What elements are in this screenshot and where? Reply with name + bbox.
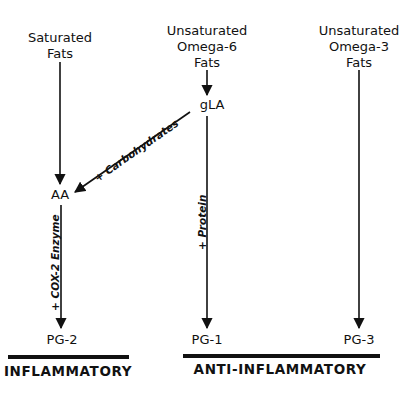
source-omega6-line2: Omega-6 [167,39,248,55]
source-saturated-fats: Saturated Fats [28,30,92,62]
source-omega6-fats: Unsaturated Omega-6 Fats [167,23,248,71]
edge-label-protein: + Protein [196,195,208,250]
node-pg1: PG-1 [192,332,223,348]
anti-inflammatory-divider [183,354,380,358]
category-inflammatory: INFLAMMATORY [4,363,132,379]
source-omega3-line3: Fats [319,55,400,71]
source-saturated-line2: Fats [28,46,92,62]
source-omega3-fats: Unsaturated Omega-3 Fats [319,23,400,71]
source-omega3-line1: Unsaturated [319,23,400,39]
source-omega3-line2: Omega-3 [319,39,400,55]
category-anti-inflammatory: ANTI-INFLAMMATORY [194,361,367,377]
inflammatory-divider [8,355,129,359]
node-pg2: PG-2 [47,332,78,348]
node-gla: gLA [200,97,225,113]
source-saturated-line1: Saturated [28,30,92,46]
edge-label-cox2-enzyme: + COX-2 Enzyme [49,214,61,311]
node-pg3: PG-3 [344,332,375,348]
source-omega6-line3: Fats [167,55,248,71]
source-omega6-line1: Unsaturated [167,23,248,39]
node-aa: AA [51,187,69,203]
